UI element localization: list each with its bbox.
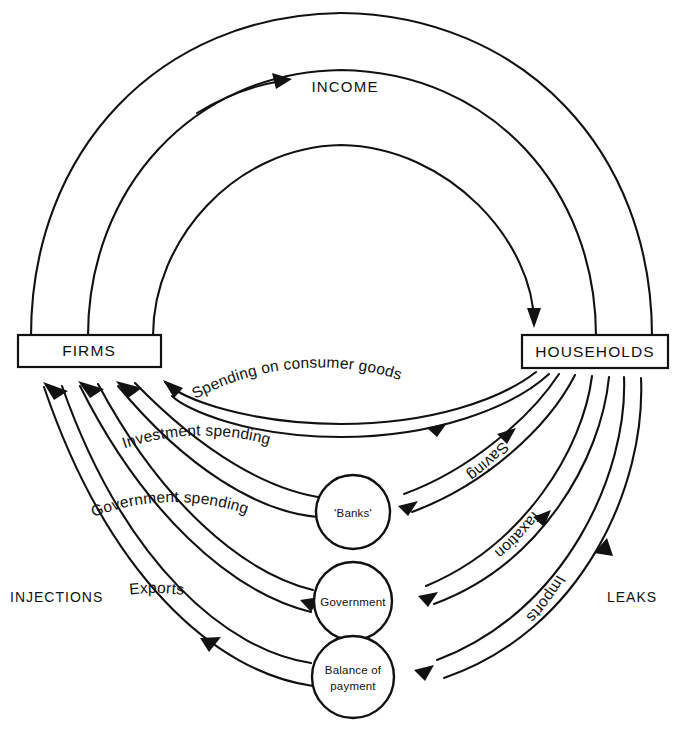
balance-of-payment-circle[interactable]: [312, 636, 394, 718]
income-middle-arc-path: [88, 70, 596, 336]
flow-saving: Saving: [398, 374, 575, 516]
income-inner-arrowhead: [527, 308, 541, 328]
node-government[interactable]: Government: [314, 562, 392, 640]
taxation-label: Taxation: [492, 507, 546, 563]
spending-consumer-goods-arrowhead-mid: [427, 423, 447, 437]
node-banks[interactable]: 'Banks': [316, 475, 390, 549]
income-flow-group: [31, 13, 652, 336]
banks-label: 'Banks': [334, 507, 372, 519]
node-balance-of-payment[interactable]: Balance of payment: [312, 636, 394, 718]
circular-flow-diagram: INCOME Spending on consumer goods Saving…: [0, 0, 683, 740]
injections-label: INJECTIONS: [10, 589, 103, 605]
spending-on-consumer-goods-label: Spending on consumer goods: [189, 353, 405, 401]
spending-consumer-goods-arrowhead-left: [163, 380, 183, 398]
saving-arrowhead-lower: [398, 501, 418, 516]
investment-spending-label: Investment spending: [120, 421, 273, 451]
government-spending-label: Government spending: [88, 488, 250, 520]
imports-arrowhead-lower: [414, 665, 434, 681]
node-firms[interactable]: FIRMS: [18, 335, 161, 367]
node-households[interactable]: HOUSEHOLDS: [522, 335, 668, 368]
income-outer-arc-path: [31, 13, 652, 336]
exports-label: Exports: [128, 579, 185, 598]
firms-label: FIRMS: [62, 342, 116, 359]
balance-of-payment-label-line1: Balance of: [325, 664, 382, 676]
imports-arrowhead-upper: [594, 538, 613, 556]
leaks-label: LEAKS: [607, 589, 657, 605]
income-label: INCOME: [311, 78, 378, 95]
exports-arrowhead-bop: [200, 637, 221, 652]
government-label: Government: [320, 596, 386, 608]
balance-of-payment-label-line2: payment: [330, 680, 376, 692]
households-label: HOUSEHOLDS: [535, 343, 655, 360]
flow-government-spending: Government spending: [78, 381, 320, 612]
income-inner-arc-path: [153, 145, 534, 336]
